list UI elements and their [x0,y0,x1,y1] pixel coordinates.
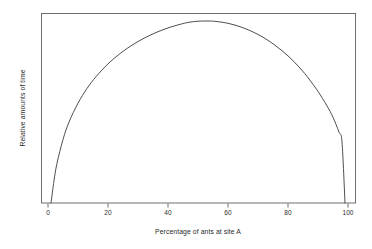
x-tick-label: 60 [224,210,231,217]
data-curve [51,21,345,203]
plot-canvas [0,0,372,249]
x-tick-label: 40 [164,210,171,217]
plot-frame [42,14,356,204]
x-tick-label: 80 [284,210,291,217]
x-axis-ticks [48,204,348,208]
x-tick-label: 100 [342,210,353,217]
y-axis-label: Relative amounts of time [19,69,26,146]
chart-figure: 020406080100 Percentage of ants at site … [0,0,372,249]
x-tick-label: 0 [46,210,50,217]
x-tick-label: 20 [104,210,111,217]
x-axis-label: Percentage of ants at site A [155,228,241,235]
